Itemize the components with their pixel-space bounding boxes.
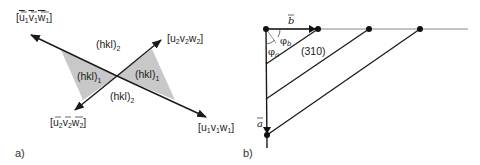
label-d1-neg: [u1v1w1] xyxy=(16,11,52,24)
diagram-canvas: [u1v1w1] [u2v2w2] [u2v2w2] [u1v1w1] (hkl… xyxy=(0,0,480,165)
label-d2-pos: [u2v2w2] xyxy=(167,32,203,45)
panel-b-label: b) xyxy=(243,147,253,159)
angle-arc-phi-a xyxy=(266,40,275,44)
panel-a: [u1v1w1] [u2v2w2] [u2v2w2] [u1v1w1] (hkl… xyxy=(15,11,234,159)
label-plane-hkl2-bottom: (hkl)2 xyxy=(110,90,134,104)
label-plane-hkl2-top: (hkl)2 xyxy=(96,38,120,52)
label-d1-pos: [u1v1w1] xyxy=(198,121,234,134)
panel-a-label: a) xyxy=(15,147,25,159)
lattice-point-origin xyxy=(263,26,269,32)
label-vector-a: a xyxy=(257,118,263,129)
panel-b: b a φb φa (310) b) xyxy=(243,15,468,159)
label-angle-phi-b: φb xyxy=(280,35,292,48)
label-angle-phi-a: φa xyxy=(268,46,279,59)
lattice-point-b3 xyxy=(417,26,423,32)
label-vector-b: b xyxy=(288,15,294,26)
label-plane-310: (310) xyxy=(301,45,326,57)
lattice-point-b2 xyxy=(366,26,372,32)
label-d2-neg: [u2v2w2] xyxy=(50,116,86,129)
